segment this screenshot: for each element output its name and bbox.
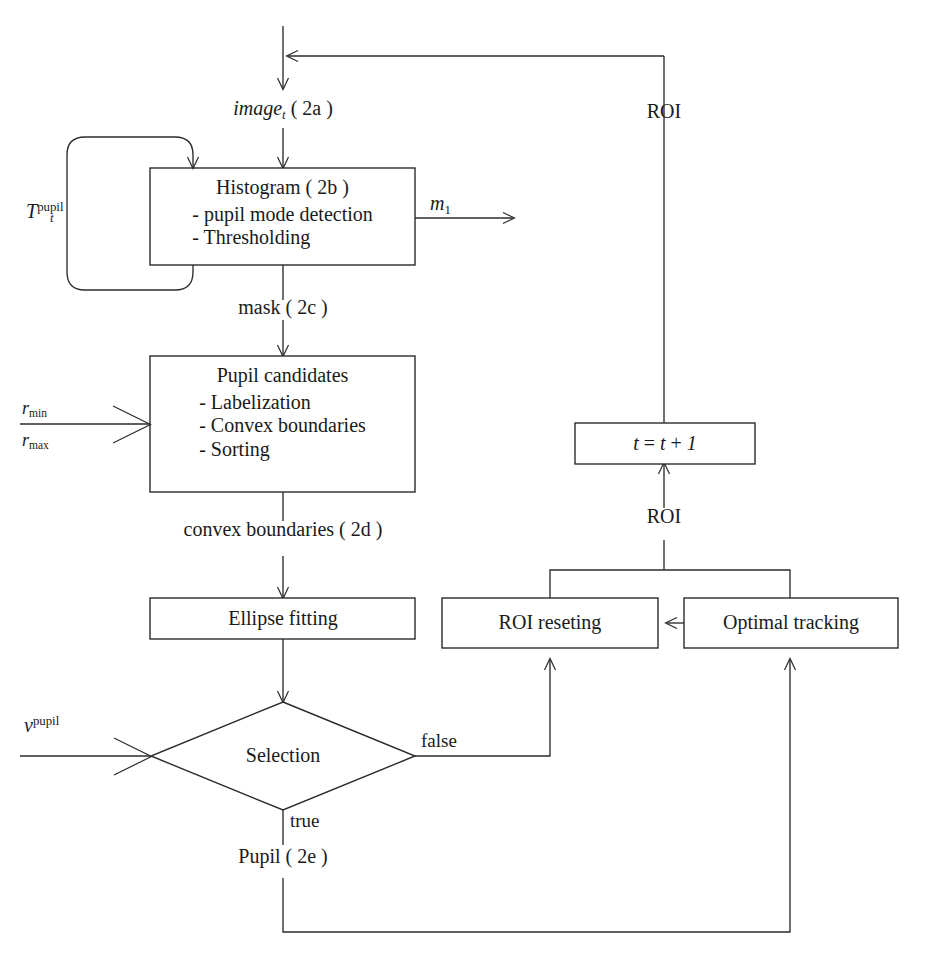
edge-label-false: false [421,730,457,752]
node-pupil-candidates-line-2: - Convex boundaries [199,414,366,438]
node-selection-title: Selection [246,744,320,768]
edge-merge-bracket [550,540,790,598]
nu-symbol: ν [24,714,33,736]
node-pupil-candidates-title: Pupil candidates [150,364,415,388]
threshold-subscript: t [50,211,54,225]
edge-roi-feedback-top [287,51,665,62]
node-pupil-candidates-line-1: - Labelization [199,391,366,415]
node-roi-reseting-title: ROI reseting [499,611,602,635]
param-nu-label: νpupil [24,714,59,738]
threshold-symbol: T [26,200,37,222]
r-max-symbol: r [22,430,29,450]
edge-entry-top [278,26,289,90]
edge-true-branch [283,659,796,933]
node-histogram-content: Histogram ( 2b ) - pupil mode detection … [150,176,415,250]
node-histogram-title: Histogram ( 2b ) [150,176,415,200]
m1-subscript: 1 [444,203,450,217]
flowchart-diagram: imaget ( 2a ) ROI Histogram ( 2b ) - pup… [0,0,925,958]
node-ellipse-fitting-title: Ellipse fitting [228,607,337,631]
time-equals: = [644,432,655,454]
edge-ellipse-to-selection [278,639,289,703]
time-one: 1 [687,432,697,454]
edge-label-roi-mid: ROI [647,505,681,529]
edge-label-true: true [290,810,320,832]
node-pupil-candidates-line-3: - Sorting [199,438,366,462]
edge-label-roi-top: ROI [647,100,681,124]
edge-tracking-to-reseting [666,618,685,629]
edge-image-to-histogram [278,128,289,169]
edge-label-m1: m1 [430,192,451,218]
node-time-increment-content: t = t + 1 [633,432,697,456]
node-pupil-candidates-content: Pupil candidates - Labelization - Convex… [150,364,415,461]
r-min-symbol: r [22,398,29,418]
r-max-subscript: max [29,439,49,451]
m1-symbol: m [430,192,444,214]
image-label-step: ( 2a ) [291,97,333,119]
edge-roi-mid-to-time [659,463,670,509]
edge-nu-input [20,738,152,775]
param-r-min-label: rmin [22,398,47,421]
node-histogram-line-2: - Thresholding [192,226,373,250]
edge-label-mask: mask ( 2c ) [238,296,327,320]
nu-superscript: pupil [33,714,59,728]
node-histogram-line-1: - pupil mode detection [192,203,373,227]
node-optimal-tracking-title: Optimal tracking [723,611,859,635]
param-r-max-label: rmax [22,430,49,453]
edge-label-pupil-output: Pupil ( 2e ) [238,845,327,869]
flowchart-canvas [0,0,925,958]
r-min-subscript: min [29,407,47,419]
edge-convex-to-ellipse [278,556,289,599]
edge-mask-to-candidates [278,320,289,357]
image-label-text: image [233,97,282,119]
edge-label-image-t: imaget ( 2a ) [233,97,333,123]
time-plus: + [671,432,682,454]
param-threshold-label: Tpupilt [26,200,54,226]
edge-label-convex-boundaries: convex boundaries ( 2d ) [184,518,383,542]
